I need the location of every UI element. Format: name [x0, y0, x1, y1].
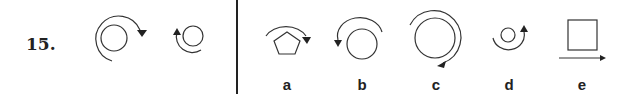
option-b-figure[interactable]	[334, 18, 382, 59]
option-a-label[interactable]: a	[283, 76, 291, 93]
option-e-label[interactable]: e	[578, 76, 586, 93]
option-d-label[interactable]: d	[504, 76, 513, 93]
option-e-figure[interactable]	[559, 20, 606, 61]
option-a-figure[interactable]	[266, 27, 311, 54]
option-c-label[interactable]: c	[432, 76, 440, 93]
figures-canvas	[0, 0, 636, 106]
stimulus-figure-2	[173, 26, 203, 53]
option-d-figure[interactable]	[493, 25, 528, 50]
option-b-label[interactable]: b	[357, 76, 366, 93]
option-c-figure[interactable]	[410, 11, 461, 68]
stimulus-figure-1	[96, 16, 147, 61]
